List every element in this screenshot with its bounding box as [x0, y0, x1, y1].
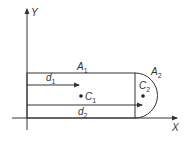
centroid-dot-c2 — [141, 94, 145, 98]
y-axis-label: Y — [31, 7, 39, 18]
label-d2: d2 — [78, 106, 88, 119]
label-a1: A1 — [76, 61, 88, 74]
label-a2: A2 — [150, 66, 162, 79]
centroid-dot-c1 — [79, 94, 83, 98]
label-c2: C2 — [139, 80, 150, 93]
composite-area-diagram: Y X A1 A2 d1 d2 C1 C2 — [0, 0, 192, 143]
x-axis-label: X — [171, 122, 179, 133]
label-d1: d1 — [46, 72, 56, 85]
label-c1: C1 — [85, 91, 96, 104]
